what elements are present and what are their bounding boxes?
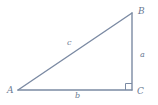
- vertex-label-b: B: [138, 7, 145, 16]
- side-label-b: b: [75, 92, 80, 100]
- triangle-drawing: [0, 0, 158, 105]
- right-triangle-diagram: A B C a b c: [0, 0, 158, 105]
- side-label-c: c: [67, 39, 71, 47]
- side-label-a: a: [140, 51, 145, 59]
- vertex-label-a: A: [7, 86, 14, 95]
- vertex-label-c: C: [137, 87, 144, 96]
- right-angle-square-icon: [126, 84, 133, 91]
- hypotenuse-line-c: [18, 13, 132, 90]
